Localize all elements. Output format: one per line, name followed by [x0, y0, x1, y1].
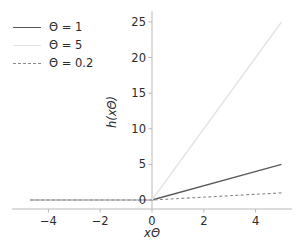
legend-label: Θ = 0.2 [49, 56, 93, 70]
y-tick-label: 0 [118, 193, 146, 207]
x-tick-label: 2 [200, 214, 207, 228]
chart-figure: 0510152025 −4−2024 h(xΘ) xΘ Θ = 1 Θ = 5 … [0, 0, 300, 249]
legend: Θ = 1 Θ = 5 Θ = 0.2 [12, 16, 110, 74]
legend-item[interactable]: Θ = 5 [12, 36, 110, 54]
y-tick-label: 5 [118, 157, 146, 171]
legend-item[interactable]: Θ = 1 [12, 18, 110, 36]
legend-item[interactable]: Θ = 0.2 [12, 54, 110, 72]
legend-line-swatch-theta-5 [12, 39, 42, 51]
y-tick-label: 20 [118, 51, 146, 65]
legend-label: Θ = 5 [49, 38, 82, 52]
x-axis-label: xΘ [144, 226, 160, 240]
legend-line-swatch-theta-02 [12, 57, 42, 69]
y-tick-label: 10 [118, 122, 146, 136]
x-tick-label: −2 [92, 214, 109, 228]
x-tick-label: −4 [40, 214, 57, 228]
y-tick-label: 15 [118, 86, 146, 100]
x-tick-label: 4 [252, 214, 259, 228]
legend-line-swatch-theta-1 [12, 21, 42, 33]
y-axis-label: h(xΘ) [105, 96, 119, 128]
legend-label: Θ = 1 [49, 20, 82, 34]
y-tick-label: 25 [118, 15, 146, 29]
